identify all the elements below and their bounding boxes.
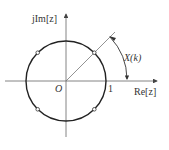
real-axis-label: Re[z] bbox=[134, 86, 156, 97]
unit-label: 1 bbox=[108, 83, 113, 94]
sample-point bbox=[93, 51, 97, 55]
sample-point bbox=[36, 51, 40, 55]
sample-point bbox=[93, 108, 97, 112]
angle-label: X(k) bbox=[123, 52, 142, 64]
sample-point bbox=[36, 108, 40, 112]
radial-line bbox=[66, 32, 115, 81]
z-plane-diagram: jIm[z] O 1 Re[z] X(k) bbox=[0, 0, 169, 150]
origin-label: O bbox=[55, 83, 62, 94]
imaginary-axis-label: jIm[z] bbox=[31, 13, 57, 24]
